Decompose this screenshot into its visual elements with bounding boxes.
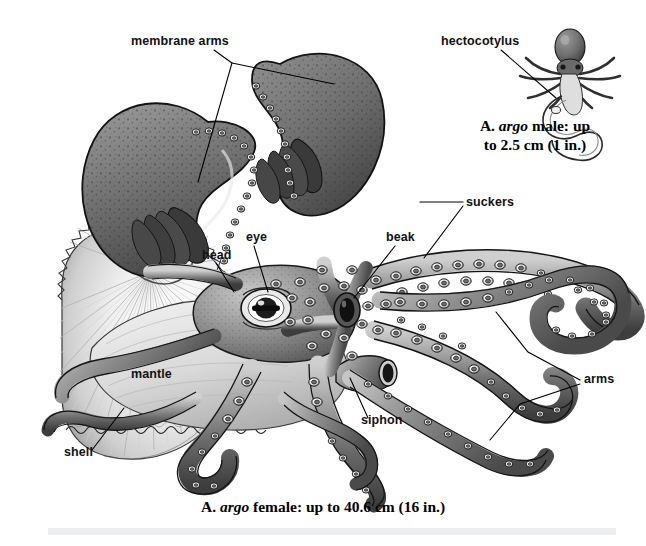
- label-hectocotylus: hectocotylus: [441, 34, 519, 48]
- label-membrane-arms: membrane arms: [131, 34, 229, 48]
- female-caption-suffix: female: up to 40.6 cm (16 in.): [249, 498, 445, 516]
- label-suckers: suckers: [466, 195, 514, 209]
- female-caption-prefix: A.: [201, 498, 220, 515]
- male-caption-species: argo: [499, 117, 529, 134]
- label-mantle: mantle: [131, 367, 172, 381]
- label-eye: eye: [246, 230, 267, 244]
- beak: [334, 293, 360, 327]
- label-shell: shell: [64, 445, 93, 459]
- argonauta-diagram: membrane arms hectocotylus suckers eye b…: [0, 0, 646, 546]
- bottom-divider-bar: [48, 528, 616, 535]
- male-caption-suffix: male: up: [528, 117, 590, 134]
- svg-text:A. argo male: up: A. argo male: up: [480, 117, 590, 134]
- siphon-opening: [383, 364, 394, 383]
- label-siphon: siphon: [361, 413, 403, 427]
- label-beak: beak: [386, 230, 415, 244]
- caption-male: A. argo male: up to 2.5 cm (1 in.): [480, 117, 590, 154]
- svg-text:A. argo female: up to 40.6 cm: A. argo female: up to 40.6 cm (16 in.): [201, 498, 445, 516]
- caption-female: A. argo female: up to 40.6 cm (16 in.): [201, 498, 445, 516]
- label-head: head: [202, 248, 232, 262]
- female-caption-species: argo: [220, 498, 250, 515]
- hectocotylus-loop: [552, 107, 561, 114]
- male-caption-line2: to 2.5 cm (1 in.): [484, 136, 586, 154]
- male-caption-prefix: A.: [480, 117, 499, 134]
- label-arms: arms: [584, 372, 614, 386]
